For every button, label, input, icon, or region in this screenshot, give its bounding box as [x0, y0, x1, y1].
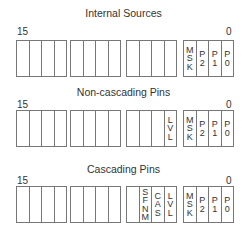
bit-label: MSK — [186, 192, 194, 218]
bit-cell — [42, 41, 55, 76]
high-bit-label: 15 — [17, 175, 28, 186]
low-bit-label: 0 — [226, 26, 232, 37]
high-bit-label: 15 — [17, 99, 28, 110]
bit-cell-p1: P1 — [209, 111, 222, 146]
bit-cell — [165, 41, 177, 76]
register-title: Non-cascading Pins — [0, 86, 247, 98]
bit-cell-lvl: LVL — [165, 111, 177, 146]
bit-label: P2 — [199, 50, 205, 67]
bit-cell — [96, 41, 109, 76]
bit-cell — [55, 41, 67, 76]
nibble-group — [70, 110, 121, 147]
bit-cell — [152, 111, 165, 146]
nibble-group: SFNMCASLVL — [126, 186, 177, 223]
bit-label: CAS — [155, 192, 162, 218]
bit-cell-p0: P0 — [222, 187, 234, 222]
bit-label: LVL — [167, 116, 173, 142]
bit-cell — [96, 111, 109, 146]
bit-label: P1 — [212, 50, 218, 67]
bit-cell-msk: MSK — [184, 111, 197, 146]
bit-cell — [140, 111, 153, 146]
bit-cell-lvl: LVL — [165, 187, 177, 222]
bit-cell-p0: P0 — [222, 111, 234, 146]
bit-cell-msk: MSK — [184, 187, 197, 222]
bit-cell — [109, 111, 121, 146]
bit-cell — [152, 41, 165, 76]
register-title: Internal Sources — [0, 7, 247, 19]
bit-cell-p1: P1 — [209, 41, 222, 76]
nibble-group: LVL — [126, 110, 177, 147]
bit-cell — [17, 111, 30, 146]
bit-cell-p0: P0 — [222, 41, 234, 76]
bit-cell-cas: CAS — [152, 187, 165, 222]
nibble-group: MSKP2P1P0 — [183, 110, 234, 147]
bit-label: P0 — [224, 120, 230, 137]
bit-cell — [30, 111, 43, 146]
bit-cell — [127, 187, 140, 222]
bit-cell-sfnm: SFNM — [140, 187, 153, 222]
bit-cell — [109, 41, 121, 76]
register-title: Cascading Pins — [0, 163, 247, 175]
bit-cell — [30, 41, 43, 76]
bit-label: P1 — [212, 120, 218, 137]
bit-label: P2 — [199, 196, 205, 213]
bit-cell — [30, 187, 43, 222]
bit-label: P0 — [224, 50, 230, 67]
bit-cell-p2: P2 — [197, 41, 210, 76]
nibble-group: MSKP2P1P0 — [183, 186, 234, 223]
bit-label: MSK — [186, 116, 194, 142]
bit-label: SFNM — [142, 188, 150, 222]
low-bit-label: 0 — [226, 99, 232, 110]
bit-cell — [96, 187, 109, 222]
bit-cell-p1: P1 — [209, 187, 222, 222]
bit-cell — [127, 41, 140, 76]
high-bit-label: 15 — [17, 26, 28, 37]
bit-cell — [71, 41, 84, 76]
bit-label: P2 — [199, 120, 205, 137]
nibble-group — [16, 40, 67, 77]
bit-cell — [42, 111, 55, 146]
bit-cell-p2: P2 — [197, 111, 210, 146]
nibble-group — [70, 186, 121, 223]
bit-cell — [71, 187, 84, 222]
nibble-group — [16, 186, 67, 223]
bit-cell-msk: MSK — [184, 41, 197, 76]
low-bit-label: 0 — [226, 175, 232, 186]
nibble-group: MSKP2P1P0 — [183, 40, 234, 77]
bit-cell — [17, 41, 30, 76]
bit-label: P1 — [212, 196, 218, 213]
bit-cell — [84, 111, 97, 146]
bit-cell — [109, 187, 121, 222]
bit-cell-p2: P2 — [197, 187, 210, 222]
bit-cell — [55, 187, 67, 222]
bit-cell — [17, 187, 30, 222]
bit-cell — [84, 187, 97, 222]
bit-label: MSK — [186, 46, 194, 72]
bit-label: LVL — [167, 192, 173, 218]
bit-cell — [84, 41, 97, 76]
bit-label: P0 — [224, 196, 230, 213]
bit-cell — [71, 111, 84, 146]
nibble-group — [70, 40, 121, 77]
bit-cell — [55, 111, 67, 146]
nibble-group — [16, 110, 67, 147]
bit-cell — [42, 187, 55, 222]
bit-cell — [140, 41, 153, 76]
bit-cell — [127, 111, 140, 146]
nibble-group — [126, 40, 177, 77]
